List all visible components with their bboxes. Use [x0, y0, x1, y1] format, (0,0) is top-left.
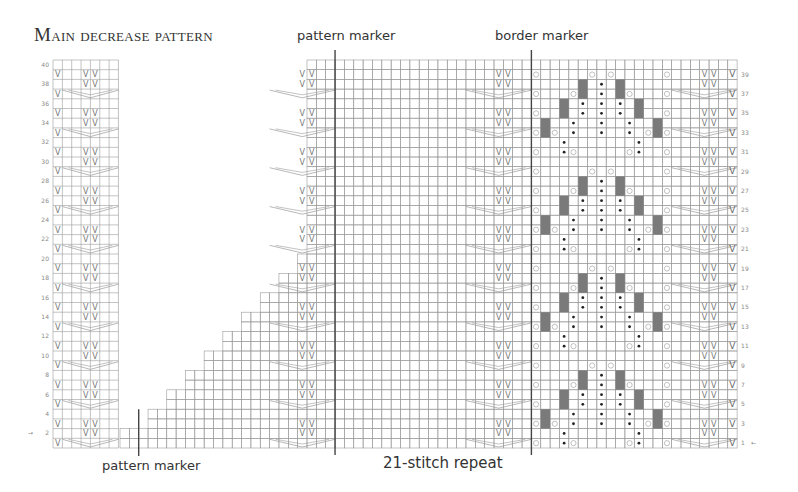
yarn-over-icon — [608, 169, 613, 174]
slip-stitch-icon: V — [92, 391, 98, 400]
slip-stitch-icon: V — [505, 158, 511, 167]
slip-stitch-icon: V — [309, 197, 315, 206]
no-stitch-block — [616, 79, 625, 98]
cable-chevron-icon — [466, 401, 531, 409]
slip-stitch-icon: V — [55, 264, 61, 273]
slip-stitch-icon: V — [711, 119, 717, 128]
yarn-over-icon — [664, 208, 669, 213]
row-number: 39 — [741, 71, 749, 78]
row-number: 6 — [45, 391, 49, 398]
slip-stitch-icon: V — [496, 352, 502, 361]
slip-stitch-icon: V — [300, 80, 306, 89]
no-stitch-block — [616, 273, 625, 292]
slip-stitch-icon: V — [496, 226, 502, 235]
no-stitch-block — [634, 196, 643, 215]
slip-stitch-icon: V — [711, 420, 717, 429]
bobble-icon — [628, 413, 631, 416]
cable-chevron-icon — [672, 207, 737, 215]
bobble-icon — [600, 325, 603, 328]
slip-stitch-icon: V — [729, 244, 736, 254]
slip-stitch-icon: V — [92, 303, 98, 312]
slip-stitch-icon: V — [711, 352, 717, 361]
bobble-icon — [600, 219, 603, 222]
slip-stitch-icon: V — [729, 89, 736, 99]
row-number: 8 — [45, 371, 49, 378]
row-number: 7 — [741, 381, 745, 388]
slip-stitch-icon: V — [309, 119, 315, 128]
row-number: 29 — [741, 168, 749, 175]
bobble-icon — [600, 102, 603, 105]
bobble-icon — [600, 199, 603, 202]
yarn-over-icon — [533, 266, 538, 271]
slip-stitch-icon: V — [505, 391, 511, 400]
slip-stitch-icon: V — [300, 158, 306, 167]
row-number: 40 — [41, 61, 49, 68]
bobble-icon — [563, 335, 566, 338]
yarn-over-icon — [533, 169, 538, 174]
row-number: 22 — [41, 235, 49, 242]
slip-stitch-icon: V — [702, 197, 708, 206]
row-number: 21 — [741, 245, 749, 252]
slip-stitch-icon: V — [309, 109, 315, 118]
bobble-icon — [572, 325, 575, 328]
no-stitch-block — [541, 215, 550, 234]
yarn-over-icon — [627, 247, 632, 252]
slip-stitch-icon: V — [92, 352, 98, 361]
bobble-icon — [638, 442, 641, 445]
bobble-icon — [572, 228, 575, 231]
slip-stitch-icon: V — [309, 187, 315, 196]
slip-stitch-icon: V — [505, 235, 511, 244]
slip-stitch-icon: V — [729, 322, 736, 332]
row-number: 23 — [741, 226, 749, 233]
slip-stitch-icon: V — [711, 313, 717, 322]
yarn-over-icon — [533, 421, 538, 426]
slip-stitch-icon: V — [92, 420, 98, 429]
row-number: 32 — [41, 138, 49, 145]
yarn-over-icon — [533, 208, 538, 213]
no-stitch-block — [541, 118, 550, 137]
bobble-icon — [600, 296, 603, 299]
slip-stitch-icon: V — [729, 438, 736, 448]
slip-stitch-icon: V — [92, 381, 98, 390]
slip-stitch-icon: V — [83, 274, 89, 283]
bobble-icon — [600, 287, 603, 290]
bobble-icon — [628, 219, 631, 222]
no-stitch-block — [634, 390, 643, 409]
slip-stitch-icon: V — [711, 391, 717, 400]
bobble-icon — [628, 422, 631, 425]
slip-stitch-icon: V — [729, 166, 736, 176]
row-number: 31 — [741, 148, 749, 155]
slip-stitch-icon: V — [55, 420, 61, 429]
slip-stitch-icon: V — [92, 235, 98, 244]
slip-stitch-icon: V — [92, 264, 98, 273]
slip-stitch-icon: V — [92, 70, 98, 79]
bobble-icon — [638, 335, 641, 338]
no-stitch-block — [578, 79, 587, 98]
yarn-over-icon — [627, 150, 632, 155]
slip-stitch-icon: V — [55, 226, 61, 235]
cable-chevron-icon — [672, 439, 737, 447]
bobble-icon — [619, 112, 622, 115]
bobble-icon — [600, 277, 603, 280]
bobble-icon — [563, 238, 566, 241]
slip-stitch-icon: V — [92, 80, 98, 89]
slip-stitch-icon: V — [702, 158, 708, 167]
cable-chevron-icon — [672, 245, 737, 253]
bobble-icon — [581, 306, 584, 309]
slip-stitch-icon: V — [92, 197, 98, 206]
yarn-over-icon — [533, 247, 538, 252]
slip-stitch-icon: V — [496, 342, 502, 351]
slip-stitch-icon: V — [711, 342, 717, 351]
yarn-over-icon — [552, 227, 557, 232]
bobble-icon — [563, 442, 566, 445]
bobble-icon — [628, 131, 631, 134]
slip-stitch-icon: V — [729, 341, 736, 351]
yarn-over-icon — [646, 324, 651, 329]
slip-stitch-icon: V — [702, 148, 708, 157]
row-number: 34 — [41, 119, 49, 126]
bobble-icon — [600, 83, 603, 86]
yarn-over-icon — [571, 344, 576, 349]
no-stitch-block — [578, 176, 587, 195]
yarn-over-icon — [646, 227, 651, 232]
slip-stitch-icon: V — [729, 419, 736, 429]
